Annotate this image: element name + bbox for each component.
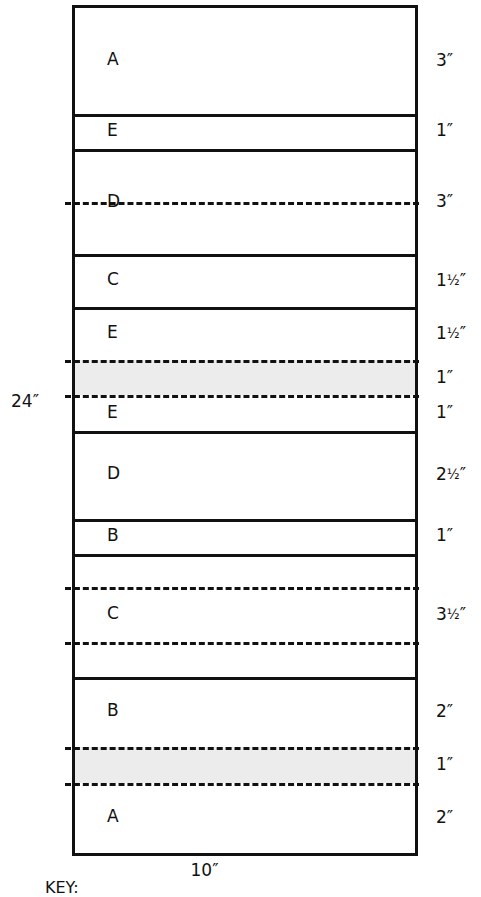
divider-dashed-mid-2 [65,202,419,205]
divider-solid-1 [75,114,415,117]
divider-solid-4 [75,307,415,310]
band-label-3: C [107,271,119,288]
overall-height-label: 24″ [11,393,39,410]
divider-dashed-11 [65,747,419,750]
cross-section-column: AEDCEEDBCBA [72,5,418,856]
band-label-12: A [107,808,119,825]
band-3-c [75,254,415,307]
overall-width-text: 10″ [191,860,219,880]
divider-dashed-6 [65,395,419,398]
dimension-label-2: 3″ [436,193,453,210]
dimension-label-8: 1″ [436,527,453,544]
dimension-label-9: 3½″ [436,606,466,623]
band-8-b [75,519,415,554]
divider-dashed-12 [65,783,419,786]
overall-width-label: 10″ [0,862,481,879]
divider-solid-9 [75,554,415,557]
dimension-label-4: 1½″ [436,325,466,342]
band-11-shaded [75,747,415,782]
dimension-label-6: 1″ [436,404,453,421]
divider-solid-7 [75,431,415,434]
band-10-b [75,677,415,747]
band-label-9: C [107,605,119,622]
band-6-e [75,395,415,430]
band-label-4: E [107,324,118,341]
divider-dashed-5 [65,360,419,363]
band-label-8: B [107,527,119,544]
band-1-e [75,114,415,149]
key-caption: KEY: [45,879,79,897]
dimension-label-1: 1″ [436,122,453,139]
divider-dashed-inner-9-1 [65,642,419,645]
dimension-label-10: 2″ [436,703,453,720]
band-label-1: E [107,122,118,139]
band-5-shaded [75,360,415,395]
band-7-d [75,431,415,519]
divider-dashed-inner-9-0 [65,587,419,590]
divider-solid-3 [75,254,415,257]
band-9-c [75,554,415,677]
band-0-a [75,8,415,114]
band-12-a [75,783,415,853]
dimension-label-12: 2″ [436,809,453,826]
band-label-10: B [107,702,119,719]
band-label-6: E [107,404,118,421]
band-4-e [75,307,415,360]
dimension-label-11: 1″ [436,756,453,773]
divider-solid-8 [75,519,415,522]
dimension-label-7: 2½″ [436,466,466,483]
dimension-label-0: 3″ [436,52,453,69]
dimension-label-5: 1″ [436,369,453,386]
divider-solid-10 [75,677,415,680]
band-label-0: A [107,51,119,68]
dimension-label-3: 1½″ [436,272,466,289]
divider-solid-2 [75,149,415,152]
band-label-7: D [107,465,120,482]
